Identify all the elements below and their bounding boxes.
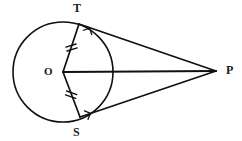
geometry-figure: T O S P xyxy=(0,0,242,141)
segment-OP xyxy=(63,71,216,72)
point-label-O: O xyxy=(44,66,53,77)
segment-SP xyxy=(80,71,216,117)
geometry-canvas xyxy=(0,0,242,141)
point-label-P: P xyxy=(226,64,233,76)
point-label-S: S xyxy=(73,126,80,138)
segment-TP xyxy=(79,24,216,71)
point-label-T: T xyxy=(73,2,81,14)
right-angle-mark-T xyxy=(83,28,92,35)
